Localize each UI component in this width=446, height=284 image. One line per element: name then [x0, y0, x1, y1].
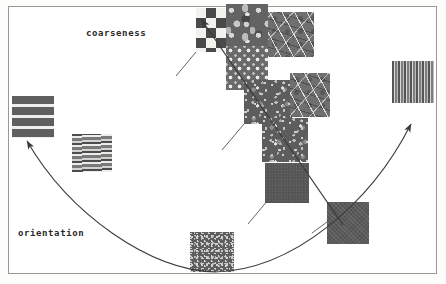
orientation-axis-label: orientation: [18, 228, 84, 238]
texture-patch-branch-filaments-2: [290, 73, 330, 117]
texture-patch-vertical-stripes: [392, 61, 434, 103]
texture-patch-dither-block: [327, 202, 369, 244]
texture-patch-mottled-noise-low: [262, 118, 308, 162]
texture-patch-branch-filaments: [268, 12, 314, 57]
texture-patch-flat-dark-center: [265, 163, 309, 203]
texture-patch-wood-grain: [72, 134, 112, 172]
texture-patch-dark-granite-top: [226, 4, 268, 46]
texture-patch-horizontal-bands: [12, 96, 54, 138]
texture-patch-fine-speckle-bottom: [190, 232, 234, 272]
texture-space-figure: coarseness orientation: [0, 0, 446, 284]
coarseness-axis-label: coarseness: [86, 28, 146, 38]
